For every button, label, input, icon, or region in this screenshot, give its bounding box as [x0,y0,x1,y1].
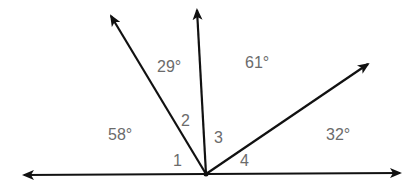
label-angle-1: 1 [173,152,182,169]
label-29-degrees: 29° [157,58,181,75]
upper-left-ray [111,16,206,174]
right-ray [206,173,400,174]
label-angle-2: 2 [181,112,190,129]
vertical-ray [197,10,206,174]
label-angle-4: 4 [240,152,249,169]
vertex-point [204,172,209,177]
left-ray [24,174,206,175]
angle-diagram: 58° 29° 61° 32° 1 2 3 4 [0,0,408,190]
label-angle-3: 3 [214,129,223,146]
label-61-degrees: 61° [245,54,269,71]
label-32-degrees: 32° [326,126,350,143]
upper-right-ray [206,64,368,174]
label-58-degrees: 58° [108,126,132,143]
